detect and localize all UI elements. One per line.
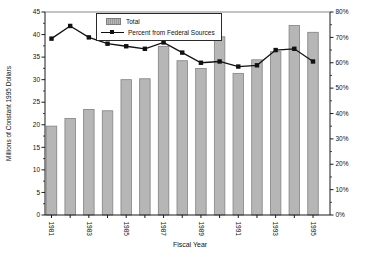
percent-marker-1994	[292, 47, 296, 51]
x-axis-tick-label: 1987	[160, 222, 167, 237]
right-axis-tick-label: 0%	[336, 211, 346, 218]
percent-marker-1983	[87, 35, 91, 39]
legend-item-total: Total	[101, 16, 215, 27]
right-axis-tick-label: 60%	[336, 59, 349, 66]
bar-1984	[102, 111, 113, 215]
left-axis-tick-label: 10	[33, 166, 41, 173]
right-axis-tick-label: 30%	[336, 135, 349, 142]
percent-marker-1982	[68, 24, 72, 28]
legend: Total Percent from Federal Sources	[96, 13, 222, 41]
bar-1981	[46, 126, 57, 215]
x-axis-tick-label: 1989	[198, 222, 205, 237]
percent-marker-1993	[273, 48, 277, 52]
bar-1983	[84, 109, 95, 215]
bar-1993	[270, 52, 281, 215]
percent-marker-1991	[236, 64, 240, 68]
percent-marker-1990	[217, 59, 221, 63]
percent-marker-1986	[143, 47, 147, 51]
right-axis-tick-label: 50%	[336, 84, 349, 91]
left-axis-tick-label: 25	[33, 98, 41, 105]
percent-marker-1985	[124, 44, 128, 48]
left-axis-tick-label: 40	[33, 31, 41, 38]
bar-1982	[65, 118, 76, 215]
bar-1989	[196, 68, 207, 215]
bar-1992	[252, 60, 263, 215]
legend-label-percent: Percent from Federal Sources	[128, 29, 215, 36]
bar-1988	[177, 61, 188, 215]
percent-marker-1992	[255, 63, 259, 67]
right-axis-tick-label: 80%	[336, 8, 349, 15]
line-marker-swatch-icon	[101, 29, 124, 36]
percent-marker-1995	[311, 59, 315, 63]
x-axis-tick-label: 1995	[310, 222, 317, 237]
left-axis-tick-label: 0	[36, 211, 40, 218]
right-axis-tick-label: 40%	[336, 110, 349, 117]
percent-marker-1984	[105, 42, 109, 46]
percent-marker-1981	[49, 36, 53, 40]
bar-1991	[233, 73, 244, 215]
left-axis-tick-label: 35	[33, 53, 41, 60]
left-axis-title: Millions of Constant 1995 Dollars	[5, 65, 12, 161]
x-axis-tick-label: 1993	[272, 222, 279, 237]
left-axis-tick-label: 30	[33, 76, 41, 83]
total-bar-swatch-icon	[106, 18, 121, 25]
x-axis-tick-label: 1985	[123, 222, 130, 237]
right-axis-tick-label: 20%	[336, 160, 349, 167]
left-axis-tick-label: 45	[33, 8, 41, 15]
left-axis-tick-label: 5	[36, 189, 40, 196]
left-axis-tick-label: 20	[33, 121, 41, 128]
bar-1994	[289, 26, 300, 215]
left-axis-tick-label: 15	[33, 144, 41, 151]
x-axis-tick-label: 1981	[48, 222, 55, 237]
bar-1987	[158, 46, 169, 215]
x-axis-tick-label: 1983	[86, 222, 93, 237]
right-axis-tick-label: 10%	[336, 186, 349, 193]
x-axis-title: Fiscal Year	[173, 241, 208, 248]
legend-label-total: Total	[126, 18, 140, 25]
legend-item-percent: Percent from Federal Sources	[101, 27, 215, 38]
bar-1985	[121, 80, 132, 215]
chart-figure: Millions of Constant 1995 Dollars Fiscal…	[0, 0, 370, 257]
right-axis-tick-label: 70%	[336, 34, 349, 41]
bar-1986	[140, 79, 151, 215]
percent-marker-1988	[180, 50, 184, 54]
percent-marker-1989	[199, 61, 203, 65]
x-axis-tick-label: 1991	[235, 222, 242, 237]
